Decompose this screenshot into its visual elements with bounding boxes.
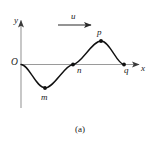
point-label-p: p — [97, 28, 102, 37]
flow-arrow-label: u — [71, 12, 76, 21]
point-marker-m — [43, 86, 47, 90]
y-axis-label: y — [14, 16, 18, 25]
figure-caption: (a) — [0, 124, 160, 134]
point-marker-n — [71, 63, 75, 67]
x-axis-label: x — [141, 64, 145, 73]
origin-label: O — [11, 58, 18, 68]
wave-figure: y x O u m n p q (a) — [0, 0, 160, 145]
point-marker-p — [99, 39, 103, 43]
point-label-n: n — [77, 66, 82, 75]
point-label-q: q — [124, 66, 129, 75]
point-label-m: m — [41, 93, 48, 102]
